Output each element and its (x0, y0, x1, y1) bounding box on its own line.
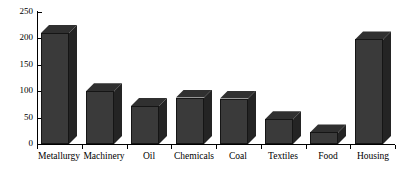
y-axis-tick-label: 100 (0, 86, 33, 95)
bar-side-face (159, 98, 168, 144)
x-axis-label: Textiles (268, 151, 298, 162)
x-axis-tick (306, 145, 307, 149)
x-axis-tick (216, 145, 217, 149)
bar-front-face (131, 106, 159, 144)
bar-front-face (355, 39, 383, 144)
x-axis-tick (171, 145, 172, 149)
bar-side-face (383, 31, 392, 144)
bar-side-face (248, 91, 257, 144)
bar-front-face (220, 99, 248, 144)
y-axis-tick (38, 144, 42, 145)
bar (355, 31, 391, 144)
bar-side-face (114, 83, 123, 144)
bar-front-face (86, 91, 114, 144)
bar-front-face (265, 119, 293, 144)
x-axis-label: Oil (143, 151, 155, 162)
bar (220, 91, 256, 144)
bar-chart: 050100150200250 MetallurgyMachineryOilCh… (0, 0, 403, 174)
bar (41, 25, 77, 144)
x-axis-label: Housing (357, 151, 389, 162)
x-axis-tick (350, 145, 351, 149)
bar-side-face (204, 90, 213, 144)
x-axis-tick (82, 145, 83, 149)
bar-front-face (310, 132, 338, 144)
y-axis-tick-label: 150 (0, 60, 33, 69)
x-axis-label: Coal (229, 151, 247, 162)
x-axis-label: Food (318, 151, 338, 162)
x-axis-tick (127, 145, 128, 149)
bar (310, 124, 346, 144)
y-axis-line (37, 11, 38, 145)
bar-front-face (176, 98, 204, 144)
y-axis-tick-label: 50 (0, 113, 33, 122)
bar-side-face (69, 25, 78, 144)
bar (176, 90, 212, 144)
y-axis-tick-label: 200 (0, 33, 33, 42)
x-axis-label: Machinery (83, 151, 124, 162)
bar (265, 111, 301, 144)
x-axis-tick (37, 145, 38, 149)
x-axis-tick (261, 145, 262, 149)
x-axis-label: Metallurgy (38, 151, 80, 162)
y-axis-tick-label: 0 (0, 139, 33, 148)
bar (86, 83, 122, 144)
y-axis-tick (38, 12, 42, 13)
x-axis-tick (395, 145, 396, 149)
bar (131, 98, 167, 144)
y-axis-tick-label: 250 (0, 7, 33, 16)
bar-front-face (41, 33, 69, 144)
x-axis-label: Chemicals (174, 151, 214, 162)
